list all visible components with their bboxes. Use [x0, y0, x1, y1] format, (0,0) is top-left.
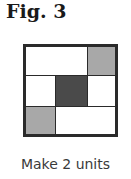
cell-top-right-light	[87, 46, 116, 76]
figure-caption: Make 2 units	[0, 156, 131, 172]
block-diagram	[23, 44, 118, 137]
cell-middle-right	[87, 75, 116, 107]
cell-bottom-wide	[55, 106, 116, 135]
cell-middle-center-dark	[55, 75, 88, 107]
cell-top-wide	[25, 46, 88, 76]
figure-title: Fig. 3	[6, 0, 66, 22]
cell-bottom-left-light	[25, 106, 56, 135]
cell-middle-left	[25, 75, 56, 107]
